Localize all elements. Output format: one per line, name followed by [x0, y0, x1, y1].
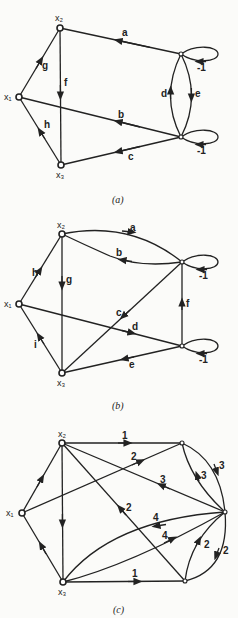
edge-label-2-r-br: 2 — [223, 545, 229, 556]
figure-b: a b c d e f g h i -1 -1 x₂ x₁ x₃ (b) — [4, 220, 218, 412]
node-x1 — [16, 301, 22, 307]
edge-4-r-x3 — [63, 512, 225, 582]
node-x2 — [57, 25, 63, 31]
node-x2 — [59, 440, 65, 446]
node-label-x3: x₃ — [56, 170, 65, 180]
edge-label-4-r-x3: 4 — [153, 512, 159, 523]
edge-label-h: h — [44, 119, 50, 130]
edge-label-2-br-r: 2 — [204, 539, 210, 550]
edge-h — [19, 234, 62, 304]
edge-2-x1-tr — [22, 443, 182, 513]
edge-label-1-top: 1 — [122, 430, 128, 441]
edge-d — [19, 304, 182, 346]
self-loop-label-top: -1 — [197, 62, 206, 73]
self-loop-label-bottom: -1 — [197, 145, 206, 156]
edge-label-g: g — [42, 60, 48, 71]
arrow-2-r-br-icon — [216, 548, 219, 556]
edge-label-f: f — [186, 298, 190, 309]
edge-label-g: g — [66, 274, 72, 285]
self-loop-bottom — [181, 130, 218, 144]
node-x3 — [58, 162, 64, 168]
arrow-4-r-x3-icon — [156, 525, 166, 527]
node-x1 — [19, 510, 25, 516]
self-loop-top — [181, 47, 218, 61]
self-loop-top — [182, 255, 218, 269]
arrow-x1-x2-icon — [37, 478, 42, 487]
arrow-d-icon — [122, 331, 132, 334]
node-x2 — [59, 231, 65, 237]
arrow-3-r-x2-icon — [161, 485, 170, 489]
edge-label-b: b — [118, 109, 124, 120]
arrow-a-icon — [118, 41, 150, 48]
node-bottom-right — [183, 579, 187, 583]
node-bottom-right — [179, 135, 183, 139]
edge-4-x3-r — [63, 512, 225, 582]
edge-d — [171, 54, 182, 137]
edge-label-2-x1-tr: 2 — [131, 451, 137, 462]
figure-a: a b c d e f g h -1 -1 x₂ x₁ x₃ (a) — [4, 13, 218, 206]
edge-label-f: f — [64, 77, 68, 88]
edge-label-e: e — [195, 88, 201, 99]
arrow-i-icon — [39, 336, 44, 344]
node-label-x2: x₂ — [57, 220, 66, 230]
edge-label-a: a — [130, 222, 136, 233]
node-label-x3: x₃ — [58, 587, 67, 597]
node-top-right — [180, 441, 184, 445]
edge-e — [62, 346, 182, 373]
edge-label-2-br-x2: 2 — [126, 502, 132, 513]
node-label-x3: x₃ — [57, 378, 66, 388]
node-label-x1: x₁ — [4, 92, 12, 102]
edge-label-c: c — [116, 307, 122, 318]
self-loop-label-bottom: -1 — [199, 354, 208, 365]
self-loop-label-top: -1 — [199, 270, 208, 281]
arrow-b-icon — [122, 260, 132, 262]
node-top-right — [180, 260, 184, 264]
node-right — [223, 510, 227, 514]
edge-b — [19, 97, 181, 137]
edge-label-4-x3-r: 4 — [162, 530, 168, 541]
edge-label-b: b — [116, 247, 122, 258]
figure-c: 1 2 3 2 4 4 1 3 3 2 2 x₂ x₁ x₃ (c) — [6, 429, 229, 616]
edge-label-d: d — [161, 88, 167, 99]
edge-label-e: e — [129, 359, 135, 370]
edge-label-h: h — [32, 267, 38, 278]
caption-c: (c) — [113, 604, 125, 616]
node-top-right — [179, 52, 183, 56]
arrow-2-br-r-icon — [196, 540, 199, 546]
edge-f — [60, 28, 61, 165]
node-x1 — [16, 94, 22, 100]
edge-e — [181, 54, 192, 137]
edge-label-1-bottom: 1 — [132, 568, 138, 579]
edge-label-3-tr-r: 3 — [219, 460, 225, 471]
edge-label-3-r-tr: 3 — [201, 470, 207, 481]
edge-x2-x3 — [62, 443, 63, 582]
edge-label-3-r-x2: 3 — [160, 474, 166, 485]
arrow-h-icon — [40, 131, 45, 139]
arrow-x3-x1-icon — [41, 545, 46, 554]
edge-label-c: c — [128, 151, 134, 162]
edge-1-bottom — [63, 581, 185, 582]
arrow-g-icon — [36, 60, 41, 69]
node-x3 — [59, 370, 65, 376]
caption-b: (b) — [112, 400, 124, 412]
node-x3 — [60, 579, 66, 585]
node-bottom-right — [180, 344, 184, 348]
node-label-x1: x₁ — [4, 299, 12, 309]
edge-label-d: d — [132, 321, 138, 332]
edge-label-i: i — [34, 339, 37, 350]
edge-label-a: a — [122, 27, 128, 38]
edge-c — [62, 262, 182, 373]
arrow-3-tr-r-icon — [214, 464, 217, 472]
caption-a: (a) — [112, 194, 124, 206]
arrow-b-icon — [118, 122, 140, 128]
node-label-x2: x₂ — [58, 429, 67, 439]
node-label-x2: x₂ — [55, 13, 64, 23]
self-loop-bottom — [182, 339, 218, 353]
arrow-c-icon — [123, 310, 130, 317]
signal-flow-graphs: a b c d e f g h -1 -1 x₂ x₁ x₃ (a) — [0, 0, 238, 618]
node-label-x1: x₁ — [6, 508, 14, 518]
